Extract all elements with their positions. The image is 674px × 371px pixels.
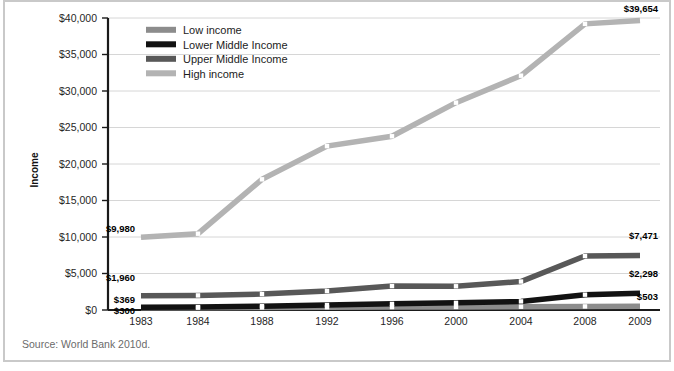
data-point-marker [196,305,200,309]
chart-figure: $0$5,000$10,000$15,000$20,000$25,000$30,… [0,0,674,371]
data-point-marker [583,254,587,258]
y-tick-label: $40,000 [59,12,97,24]
legend-swatch-high-income [146,70,176,76]
data-point-marker [454,305,458,309]
data-point-marker [260,292,264,296]
data-point-marker [325,144,329,148]
data-point-marker [519,299,523,303]
legend-label: Low income [183,24,242,36]
end-value-label: $7,471 [629,230,659,241]
x-tick-label: 1983 [129,315,153,327]
data-point-marker [390,134,394,138]
x-tick-label-group: 198319841988199219962000200420082009 [129,315,652,327]
x-tick-label: 2004 [509,315,533,327]
y-tick-label: $25,000 [59,121,97,133]
legend-swatch-upper-middle-income [146,56,176,62]
y-tick-label: $10,000 [59,231,97,243]
data-point-marker [583,22,587,26]
x-tick-label: 1992 [315,315,339,327]
data-point-marker [390,302,394,306]
y-tick-label-group: $0$5,000$10,000$15,000$20,000$25,000$30,… [59,12,97,316]
data-point-marker [454,301,458,305]
legend-label: Upper Middle Income [183,53,288,65]
y-tick-label: $0 [85,304,97,316]
end-value-label: $39,654 [624,3,659,14]
x-tick-label: 1988 [250,315,274,327]
series-line-upper-middle-income [141,255,640,295]
data-point-marker [325,303,329,307]
chart-legend: Low incomeLower Middle IncomeUpper Middl… [146,24,288,80]
end-value-label: $2,298 [629,268,658,279]
y-axis-title: Income [29,152,40,187]
data-point-marker [519,73,523,77]
data-point-marker [454,100,458,104]
x-tick-label: 2009 [628,315,652,327]
data-point-marker [583,304,587,308]
x-tick-label: 1984 [186,315,210,327]
start-value-label: $9,980 [106,223,135,234]
data-point-marker [325,289,329,293]
x-tick-label: 2008 [573,315,597,327]
data-point-marker [454,284,458,288]
legend-swatch-low-income [146,27,176,33]
y-tick-label: $20,000 [59,158,97,170]
data-point-marker [196,293,200,297]
data-point-marker [196,232,200,236]
y-tick-label: $30,000 [59,85,97,97]
data-point-marker [260,304,264,308]
legend-label: High income [183,68,244,80]
income-line-chart: $0$5,000$10,000$15,000$20,000$25,000$30,… [0,0,674,371]
data-point-marker [583,292,587,296]
start-value-label: $369 [114,294,135,305]
data-point-marker [260,177,264,181]
start-value-label: $300 [114,305,135,316]
legend-swatch-lower-middle-income [146,41,176,47]
y-tick-label: $15,000 [59,194,97,206]
legend-label: Lower Middle Income [183,39,288,51]
y-tick-label: $35,000 [59,48,97,60]
start-value-label: $1,960 [106,272,135,283]
end-value-label: $503 [637,291,658,302]
source-note: Source: World Bank 2010d. [22,338,150,350]
data-point-marker [390,284,394,288]
data-point-marker [519,305,523,309]
x-tick-label: 2000 [444,315,468,327]
data-point-marker [519,279,523,283]
y-tick-label: $5,000 [65,267,97,279]
x-tick-label: 1996 [380,315,404,327]
